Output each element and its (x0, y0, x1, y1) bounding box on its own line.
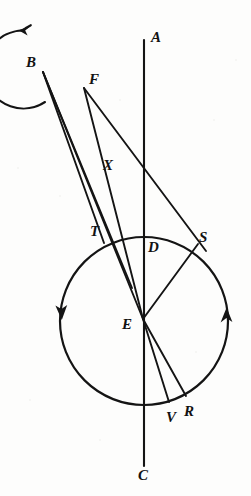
point-label-V: V (166, 410, 176, 425)
point-label-F: F (89, 72, 99, 87)
small-circle-arc (0, 31, 45, 109)
small-circle-group (0, 25, 45, 108)
geometry-diagram-svg (0, 0, 251, 496)
point-label-E: E (122, 317, 132, 332)
ray-B-to-T (43, 72, 104, 243)
paper-texture (17, 59, 236, 440)
point-label-X: X (103, 158, 113, 173)
point-label-S: S (199, 230, 207, 245)
point-label-R: R (184, 404, 194, 419)
geometry-figure: A B F X T D S E V R C (0, 0, 251, 496)
point-label-D: D (148, 240, 159, 255)
point-label-B: B (26, 55, 36, 70)
point-label-A: A (151, 30, 161, 45)
radii-from-E (143, 244, 198, 402)
point-label-C: C (138, 468, 148, 483)
large-circle-right-direction-arrow (221, 308, 233, 323)
radius-E-to-R (143, 319, 186, 396)
ray-B-to-E (43, 72, 143, 319)
ray-F-to-E (84, 88, 143, 319)
rays-from-B (43, 72, 143, 319)
radius-E-to-S (143, 244, 198, 319)
small-circle-arc-tail (23, 25, 31, 30)
point-label-T: T (90, 224, 99, 239)
